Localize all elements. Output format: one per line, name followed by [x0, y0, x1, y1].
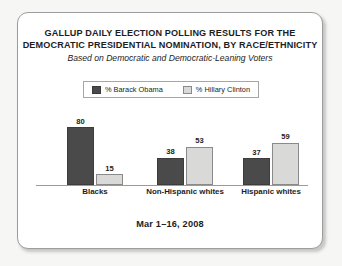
bar-value-clinton-blacks: 15	[105, 165, 113, 173]
bar-obama-hispanic-whites: 37	[243, 113, 270, 185]
chart-card: GALLUP DAILY ELECTION POLLING RESULTS FO…	[17, 12, 323, 249]
legend-entry-clinton: % Hillary Clinton	[183, 85, 250, 94]
legend-swatch-icon-clinton	[183, 86, 192, 94]
bar-clinton-blacks: 15	[96, 113, 123, 185]
bar-value-clinton-hispanic-whites: 59	[281, 133, 289, 141]
plot-area: 80 15 Blacks 38	[36, 113, 308, 203]
bar-group-non-hispanic-whites: 38 53 Non-Hispanic whites	[148, 113, 222, 185]
bar-rect-clinton-non-hispanic-whites	[186, 147, 213, 185]
bar-value-clinton-non-hispanic-whites: 53	[195, 137, 203, 145]
bar-rect-obama-blacks	[67, 127, 94, 185]
bar-rect-clinton-hispanic-whites	[272, 143, 299, 186]
bar-group-bars: 80 15	[58, 113, 132, 185]
bar-group-bars: 38 53	[148, 113, 222, 185]
bar-value-obama-blacks: 80	[76, 118, 84, 126]
legend-swatch-icon-obama	[92, 86, 101, 94]
category-label-blacks: Blacks	[82, 187, 107, 196]
legend-entry-obama: % Barack Obama	[92, 85, 163, 94]
bar-value-obama-hispanic-whites: 37	[252, 149, 260, 157]
legend-label-obama: % Barack Obama	[105, 85, 163, 94]
bar-group-blacks: 80 15 Blacks	[58, 113, 132, 185]
bar-value-obama-non-hispanic-whites: 38	[166, 148, 174, 156]
category-label-non-hispanic-whites: Non-Hispanic whites	[146, 187, 224, 196]
category-label-hispanic-whites: Hispanic whites	[241, 187, 301, 196]
legend-label-clinton: % Hillary Clinton	[196, 85, 250, 94]
bar-obama-blacks: 80	[67, 113, 94, 185]
chart-title-line-2: DEMOCRATIC PRESIDENTIAL NOMINATION, BY R…	[18, 39, 322, 51]
bar-clinton-non-hispanic-whites: 53	[186, 113, 213, 185]
chart-title-line-1: GALLUP DAILY ELECTION POLLING RESULTS FO…	[18, 27, 322, 39]
chart-legend: % Barack Obama % Hillary Clinton	[83, 81, 259, 98]
bar-rect-obama-hispanic-whites	[243, 158, 270, 185]
figure-root: GALLUP DAILY ELECTION POLLING RESULTS FO…	[0, 0, 342, 266]
bar-obama-non-hispanic-whites: 38	[157, 113, 184, 185]
chart-footer-date: Mar 1–16, 2008	[18, 219, 322, 229]
bar-rect-clinton-blacks	[96, 174, 123, 185]
title-block: GALLUP DAILY ELECTION POLLING RESULTS FO…	[18, 27, 322, 65]
bar-rect-obama-non-hispanic-whites	[157, 158, 184, 185]
chart-subtitle: Based on Democratic and Democratic-Leani…	[18, 52, 322, 65]
bar-group-hispanic-whites: 37 59 Hispanic whites	[234, 113, 308, 185]
bar-group-bars: 37 59	[234, 113, 308, 185]
bar-clinton-hispanic-whites: 59	[272, 113, 299, 185]
